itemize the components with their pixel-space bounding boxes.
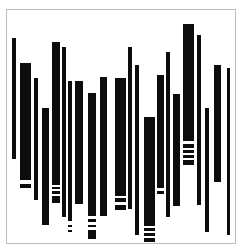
bar [75,81,83,204]
bar-stripe [157,191,164,194]
bar-stripe [144,238,155,242]
bar [100,77,107,216]
bar-stripe [115,198,126,202]
bar [205,108,209,232]
bar [20,63,31,180]
bar-stripe [52,196,60,203]
bar-stripe [144,228,155,231]
bar-stripe [20,184,31,188]
bar-stripe [183,144,194,148]
bar-stripe [183,150,194,153]
bar [34,78,38,200]
bar-stripe [115,205,126,210]
bar [227,68,230,235]
bar [135,65,139,235]
artwork-canvas [0,0,244,250]
bar [42,108,49,225]
bar [68,81,72,221]
bar [144,117,155,226]
bar-stripe [52,187,60,189]
bar-stripe [183,155,194,158]
bar-stripe [88,225,96,227]
bar [128,47,132,209]
bar-stripe [88,219,96,222]
bar [52,42,60,185]
bar [214,65,221,182]
bar-stripe [52,191,60,194]
bar [115,78,126,196]
bar [183,24,194,141]
bar [62,47,66,217]
bar [166,52,170,217]
bar-stripe [183,160,194,165]
bar-stripe [68,225,72,227]
bar-stripe [88,230,96,239]
bar [173,94,180,206]
bar [12,38,16,159]
bar-stripe [68,230,72,232]
bar-stripe [144,233,155,236]
bar [88,93,96,216]
bar [197,35,201,205]
bar [157,75,164,188]
